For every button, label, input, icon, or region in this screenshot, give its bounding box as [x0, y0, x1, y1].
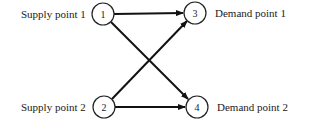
edge-1-to-3 [114, 13, 183, 14]
node-1: 1 [92, 3, 114, 25]
caption-demand-point-2: Demand point 2 [217, 101, 288, 113]
caption-demand-point-1: Demand point 1 [215, 7, 286, 19]
node-4: 4 [186, 96, 208, 118]
caption-supply-point-2: Supply point 2 [21, 101, 86, 113]
node-3: 3 [184, 2, 206, 24]
caption-supply-point-1: Supply point 1 [21, 8, 86, 20]
svg-text:1: 1 [101, 9, 106, 20]
node-2: 2 [93, 96, 115, 118]
svg-text:3: 3 [193, 8, 198, 19]
svg-text:4: 4 [195, 102, 200, 113]
svg-text:2: 2 [102, 102, 107, 113]
